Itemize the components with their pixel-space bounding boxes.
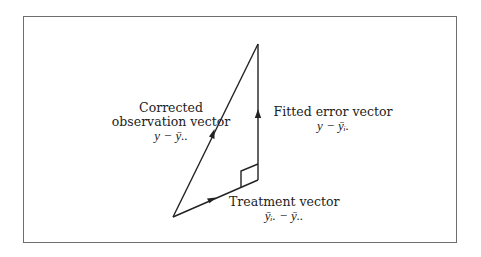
treatment-formula: ȳᵢ. − ȳ.. [229, 209, 339, 223]
corrected-formula: y − ȳ.. [96, 129, 246, 143]
fitted-error-label: Fitted error vector y − ȳᵢ. [268, 105, 398, 133]
corrected-observation-label: Corrected observation vector y − ȳ.. [96, 101, 246, 143]
treatment-label: Treatment vector ȳᵢ. − ȳ.. [229, 195, 339, 223]
fitted-error-formula: y − ȳᵢ. [268, 119, 398, 133]
treatment-line1: Treatment vector [229, 195, 339, 209]
fitted-error-arrow-icon [255, 109, 261, 118]
corrected-line2: observation vector [96, 115, 246, 129]
corrected-line1: Corrected [96, 101, 246, 115]
fitted-error-line1: Fitted error vector [268, 105, 398, 119]
